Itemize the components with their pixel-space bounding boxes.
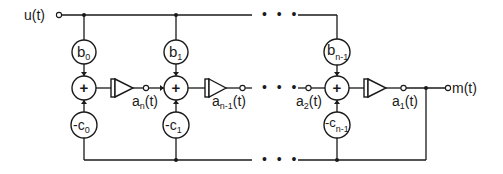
input-terminal [56,12,61,17]
svg-text:+: + [80,79,89,96]
integrator-n-1 [364,79,386,97]
ellipsis-middle: • • • [262,79,299,95]
stage-0: b0 + -c0 an(t) [71,15,164,160]
input-label: u(t) [24,7,45,23]
junction-dot [424,86,428,90]
svg-text:+: + [172,79,181,96]
output-terminal [445,85,450,90]
ellipsis-bottom: • • • [262,151,299,167]
output-label: m(t) [452,80,477,96]
integrator-0 [111,79,133,97]
stage-n-1: bn-1 + -cn-1 a2(t) a1(t) [296,15,445,160]
block-diagram: u(t) • • • • • • b0 + -c0 an(t) [0,0,503,174]
stage-1: b1 + -c1 an-1(t) [163,15,252,160]
signal-label-a1: a1(t) [392,93,418,111]
svg-text:+: + [333,79,342,96]
signal-label-a2: a2(t) [296,93,322,111]
ellipsis-top: • • • [262,6,299,22]
signal-label-an-1: an-1(t) [212,93,246,111]
signal-label-an: an(t) [132,93,158,111]
